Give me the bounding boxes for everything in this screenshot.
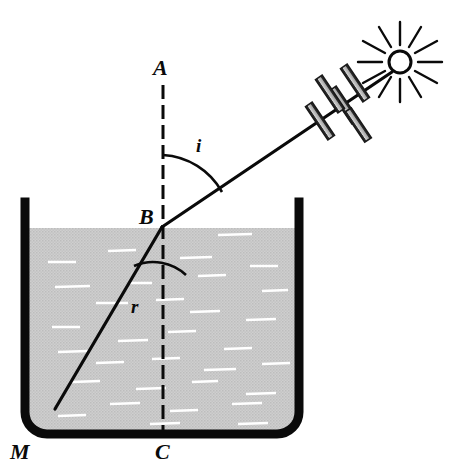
label-normal-bottom: C <box>155 441 170 463</box>
refraction-diagram: A B C M i r <box>0 0 463 471</box>
label-vessel: M <box>10 441 30 463</box>
label-angle-of-incidence: i <box>196 136 201 155</box>
ray-hatch-bars <box>306 64 372 142</box>
diagram-canvas <box>0 0 463 471</box>
angle-of-incidence-arc <box>163 155 222 192</box>
label-angle-of-refraction: r <box>131 297 138 316</box>
sun-icon <box>358 22 442 102</box>
label-incidence-point: B <box>139 206 154 228</box>
label-normal-top: A <box>153 57 168 79</box>
